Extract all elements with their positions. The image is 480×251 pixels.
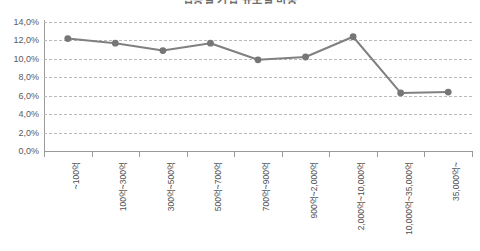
x-axis-category-label: 100억~300억 xyxy=(119,162,128,211)
line-chart: 업종별 기업 규모별 비중 0,0%2,0%4,0%6,0%8,0%10,0%1… xyxy=(0,0,480,251)
x-axis-tick xyxy=(282,151,283,157)
data-point: 700억~900억: 9,9% xyxy=(255,56,262,63)
chart-title: 업종별 기업 규모별 비중 xyxy=(0,0,480,4)
data-series: ~100억: 12,2%100억~300억: 11,7%300억~500억: 1… xyxy=(44,22,472,151)
x-axis-category-label: 700억~900억 xyxy=(262,162,271,211)
y-axis-tick-label: 8,0% xyxy=(18,73,39,82)
data-point: 500억~700억: 11,7% xyxy=(207,40,214,47)
x-axis-category-label: 35,000억~ xyxy=(452,162,461,201)
data-point: 35,000억~: 6,4% xyxy=(445,89,452,96)
y-axis-tick-label: 0,0% xyxy=(18,147,39,156)
x-axis-category-label: 300억~500억 xyxy=(167,162,176,211)
x-axis-line xyxy=(44,151,472,152)
x-axis-tick xyxy=(424,151,425,157)
series-markers: ~100억: 12,2%100억~300억: 11,7%300억~500억: 1… xyxy=(64,33,451,96)
x-axis-category-label: 500억~700억 xyxy=(214,162,223,211)
x-axis-tick xyxy=(139,151,140,157)
y-axis-tick-label: 2,0% xyxy=(18,128,39,137)
y-axis-tick-label: 4,0% xyxy=(18,110,39,119)
x-axis-category-label: 2,000억~10,000억 xyxy=(357,162,366,230)
y-axis-tick-label: 6,0% xyxy=(18,91,39,100)
data-point: 10,000억~35,000억: 6,3% xyxy=(397,90,404,97)
x-axis-tick xyxy=(234,151,235,157)
x-axis-tick xyxy=(44,151,45,157)
x-axis-category-label: 10,000억~35,000억 xyxy=(405,162,414,235)
x-axis-tick xyxy=(377,151,378,157)
x-axis-tick xyxy=(92,151,93,157)
series-line xyxy=(68,37,448,93)
data-point: 100억~300억: 11,7% xyxy=(112,40,119,47)
data-point: 900억~2,000억: 10,2% xyxy=(302,54,309,61)
x-axis-tick xyxy=(472,151,473,157)
x-axis-tick xyxy=(187,151,188,157)
data-point: ~100억: 12,2% xyxy=(64,35,71,42)
y-axis-tick-label: 10,0% xyxy=(13,54,39,63)
data-point: 2,000억~10,000억: 12,4% xyxy=(350,33,357,40)
y-axis-tick-label: 12,0% xyxy=(13,36,39,45)
x-axis-category-label: ~100억 xyxy=(72,162,81,189)
data-point: 300억~500억: 10,9% xyxy=(159,47,166,54)
x-axis-category-label: 900억~2,000억 xyxy=(310,162,319,218)
plot-area: 0,0%2,0%4,0%6,0%8,0%10,0%12,0%14,0% ~100… xyxy=(44,22,472,151)
x-axis-tick xyxy=(329,151,330,157)
y-axis-tick-label: 14,0% xyxy=(13,18,39,27)
